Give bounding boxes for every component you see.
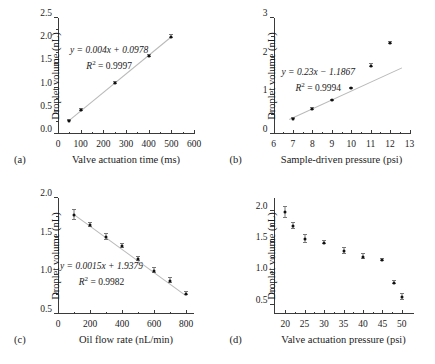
x-tick	[274, 130, 275, 134]
y-tick-label: 0.0	[40, 124, 52, 134]
error-bar-cap	[72, 209, 76, 210]
y-minor-tick	[271, 114, 274, 115]
y-tick-label: 1.0	[40, 265, 52, 275]
panel-b-equation: y = 0.23x − 1.1867	[282, 67, 356, 77]
panel-b: y = 0.23x − 1.1867 R2 = 0.9994 Sample-dr…	[218, 0, 435, 182]
y-tick-label: 2.0	[256, 201, 268, 211]
x-minor-tick	[295, 312, 296, 315]
panel-c-tag: (c)	[14, 334, 26, 345]
x-minor-tick	[283, 132, 284, 135]
y-tick-label: 1.5	[40, 54, 52, 64]
x-tick	[363, 310, 364, 314]
data-point	[342, 250, 345, 253]
error-bar-cap	[303, 242, 307, 243]
data-point	[369, 64, 372, 67]
y-tick-label: 2.5	[40, 8, 52, 18]
panel-b-annotation: y = 0.23x − 1.1867 R2 = 0.9994	[282, 66, 356, 94]
x-tick-label: 30	[319, 319, 329, 329]
data-point	[400, 296, 403, 299]
x-tick	[90, 310, 91, 314]
y-minor-tick	[56, 216, 59, 217]
data-point	[291, 117, 294, 120]
error-bar-cap	[303, 234, 307, 235]
panel-a: y = 0.004x + 0.0978 R2 = 0.9997 Valve ac…	[0, 0, 218, 182]
y-tick	[270, 17, 274, 18]
x-minor-tick	[380, 132, 381, 135]
error-bar-cap	[400, 293, 404, 294]
x-minor-tick	[183, 132, 184, 135]
x-minor-tick	[392, 312, 393, 315]
data-point	[323, 241, 326, 244]
x-tick-label: 10	[346, 139, 356, 149]
x-minor-tick	[106, 312, 107, 315]
x-minor-tick	[74, 312, 75, 315]
x-tick	[293, 130, 294, 134]
data-point	[89, 224, 92, 227]
data-point	[361, 255, 364, 258]
data-point	[185, 292, 188, 295]
data-point	[79, 109, 82, 112]
x-tick	[410, 130, 411, 134]
panel-b-ylabel: Droplet volume (nL)	[266, 32, 277, 119]
x-tick-label: 0	[56, 139, 61, 149]
data-point	[381, 259, 384, 262]
y-tick	[54, 236, 58, 237]
x-minor-tick	[314, 312, 315, 315]
x-tick-label: 25	[300, 319, 310, 329]
error-bar-cap	[342, 247, 346, 248]
panel-a-equation: y = 0.004x + 0.0978	[70, 45, 148, 55]
x-minor-tick	[160, 132, 161, 135]
panel-a-tag: (a)	[14, 154, 26, 165]
error-bar-cap	[291, 228, 295, 229]
x-tick	[81, 130, 82, 134]
data-point	[170, 35, 173, 38]
x-minor-tick	[138, 312, 139, 315]
y-tick	[54, 87, 58, 88]
y-tick-label: 0	[263, 124, 268, 134]
y-tick	[54, 17, 58, 18]
y-tick-label: 1	[263, 85, 268, 95]
x-tick-label: 11	[366, 139, 375, 149]
x-minor-tick	[69, 132, 70, 135]
x-tick-label: 6	[271, 139, 276, 149]
x-tick	[149, 130, 150, 134]
panel-a-annotation: y = 0.004x + 0.0978 R2 = 0.9997	[70, 44, 148, 72]
error-bar-cap	[361, 253, 365, 254]
x-tick-label: 800	[179, 319, 193, 329]
panel-d-xlabel: Valve actuation pressure (psi)	[281, 334, 406, 345]
x-tick-label: 50	[397, 319, 407, 329]
error-bar-cap	[283, 217, 287, 218]
panel-b-r2: R2 = 0.9994	[282, 79, 356, 95]
y-tick-label: 1.5	[40, 227, 52, 237]
y-tick-label: 1.5	[256, 232, 268, 242]
y-tick-label: 1.0	[40, 78, 52, 88]
y-tick	[54, 274, 58, 275]
y-minor-tick	[56, 121, 59, 122]
error-bar-cap	[104, 233, 108, 234]
x-tick-label: 13	[405, 139, 415, 149]
data-point	[121, 244, 124, 247]
data-point	[393, 281, 396, 284]
x-tick	[103, 130, 104, 134]
data-point	[105, 235, 108, 238]
panel-a-xlabel: Valve actuation time (ms)	[72, 154, 180, 165]
x-tick	[58, 130, 59, 134]
panel-d: Valve actuation pressure (psi) Droplet v…	[218, 182, 435, 364]
panel-c-plot: y = 0.0015x + 1.9379 R2 = 0.9982 Oil flo…	[58, 198, 194, 314]
data-point	[389, 42, 392, 45]
x-minor-tick	[170, 312, 171, 315]
y-tick	[270, 304, 274, 305]
x-tick-label: 200	[83, 319, 97, 329]
y-tick-label: 0.5	[40, 304, 52, 314]
x-tick	[390, 130, 391, 134]
x-tick-label: 600	[147, 319, 161, 329]
x-minor-tick	[322, 132, 323, 135]
y-tick	[54, 40, 58, 41]
x-tick	[194, 130, 195, 134]
panel-a-plot: y = 0.004x + 0.0978 R2 = 0.9997 Valve ac…	[58, 18, 194, 134]
data-point	[291, 225, 294, 228]
panel-c-annotation: y = 0.0015x + 1.9379 R2 = 0.9982	[60, 260, 143, 288]
error-bar-cap	[72, 219, 76, 220]
x-tick-label: 35	[339, 319, 349, 329]
data-point	[147, 55, 150, 58]
